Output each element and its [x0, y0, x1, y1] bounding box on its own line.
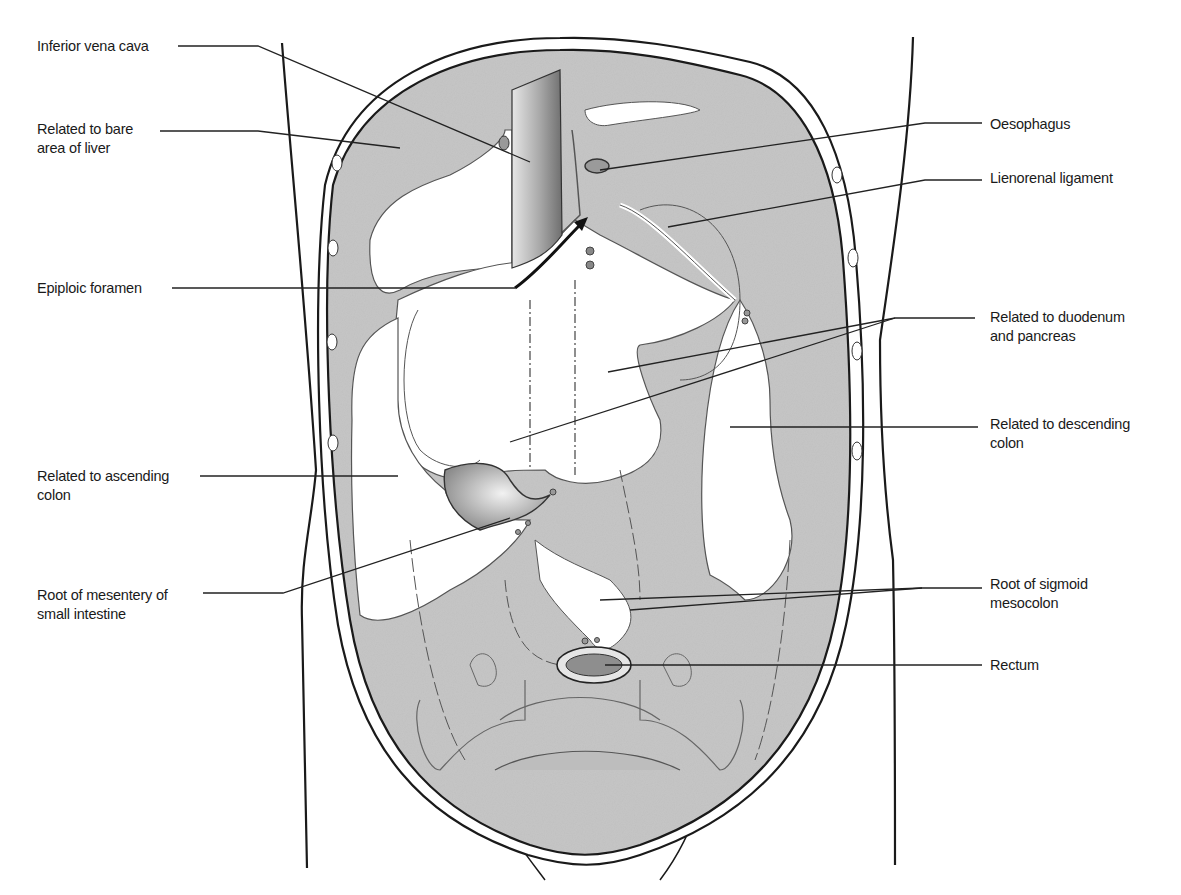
oesophagus-ring: [585, 159, 609, 173]
anatomy-figure: Inferior vena cava Related to bare area …: [0, 0, 1181, 895]
label-ascending-colon: Related to ascending colon: [37, 467, 169, 505]
label-epiploic-foramen: Epiploic foramen: [37, 279, 142, 298]
label-duodenum-pancreas: Related to duodenum and pancreas: [990, 308, 1125, 346]
label-rectum: Rectum: [990, 656, 1039, 675]
left-flank-outline: [282, 43, 316, 868]
right-flank-outline: [880, 37, 913, 865]
inferior-vena-cava-vessel: [512, 70, 562, 268]
label-lienorenal-ligament: Lienorenal ligament: [990, 169, 1113, 188]
label-oesophagus: Oesophagus: [990, 115, 1070, 134]
label-descending-colon: Related to descending colon: [990, 415, 1130, 453]
label-bare-area-liver: Related to bare area of liver: [37, 120, 133, 158]
hepatic-vein-stub: [499, 136, 509, 150]
label-root-sigmoid: Root of sigmoid mesocolon: [990, 575, 1088, 613]
label-inferior-vena-cava: Inferior vena cava: [37, 37, 149, 56]
label-root-mesentery: Root of mesentery of small intestine: [37, 586, 168, 624]
